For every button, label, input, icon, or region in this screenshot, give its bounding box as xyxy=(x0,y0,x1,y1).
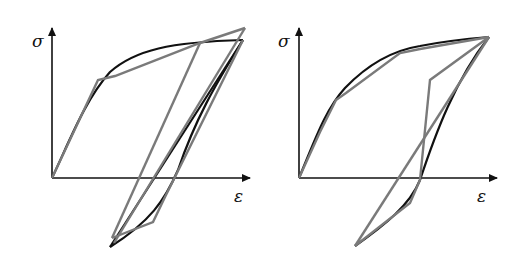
right-piecewise-unloading xyxy=(355,37,489,246)
left-sigma-label: σ xyxy=(32,31,44,51)
diagram-canvas: σ ε σ ε xyxy=(0,0,513,262)
left-piecewise-unloading-2 xyxy=(114,28,245,243)
left-epsilon-label: ε xyxy=(234,186,243,206)
hysteresis-figure: σ ε σ ε xyxy=(0,0,513,262)
left-panel: σ ε xyxy=(32,28,250,247)
right-panel: σ ε xyxy=(278,28,497,246)
right-sigma-label: σ xyxy=(278,31,290,51)
right-epsilon-label: ε xyxy=(477,186,486,206)
